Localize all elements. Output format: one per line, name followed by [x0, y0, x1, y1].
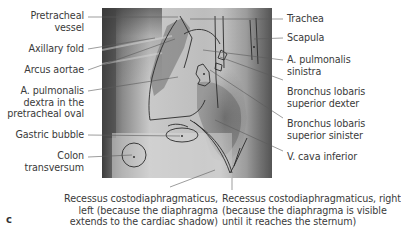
label-a-pulmonalis-dextra: A. pulmonalis dextra in the pretracheal … [7, 85, 84, 120]
label-line: Bronchus lobaris [287, 118, 365, 130]
label-line: Recessus costodiaphragmaticus, right [222, 193, 401, 205]
label-line: Arcus aortae [24, 64, 84, 76]
label-v-cava-inferior: V. cava inferior [287, 151, 357, 163]
label-axillary-fold: Axillary fold [29, 43, 85, 55]
label-recessus-left: Recessus costodiaphragmaticus, left (bec… [22, 193, 218, 228]
label-bronchus-lobaris-superior-dexter: Bronchus lobaris superior dexter [287, 86, 365, 109]
label-line: Gastric bubble [15, 129, 84, 141]
label-line: Recessus costodiaphragmaticus, [22, 193, 218, 205]
label-trachea: Trachea [287, 13, 324, 25]
label-line: until it reaches the sternum) [222, 216, 401, 228]
label-line: Scapula [287, 32, 324, 44]
label-line: superior dexter [287, 98, 365, 110]
label-arcus-aortae: Arcus aortae [24, 64, 84, 76]
label-line: left (because the diaphragma [22, 205, 218, 217]
label-bronchus-lobaris-superior-sinister: Bronchus lobaris superior sinister [287, 118, 365, 141]
label-line: Trachea [287, 13, 324, 25]
label-line: vessel [30, 22, 84, 34]
label-line: (because the diaphragma is visible [222, 205, 401, 217]
label-line: A. pulmonalis [287, 54, 351, 66]
label-line: A. pulmonalis [7, 85, 84, 97]
label-colon-transversum: Colon transversum [24, 150, 84, 173]
label-a-pulmonalis-sinistra: A. pulmonalis sinistra [287, 54, 351, 77]
label-line: extends to the cardiac shadow) [22, 216, 218, 228]
label-line: Pretracheal [30, 10, 84, 22]
label-line: dextra in the [7, 97, 84, 109]
label-scapula: Scapula [287, 32, 324, 44]
label-line: V. cava inferior [287, 151, 357, 163]
label-line: Colon [24, 150, 84, 162]
label-line: superior sinister [287, 130, 365, 142]
label-line: pretracheal oval [7, 108, 84, 120]
lateral-chest-radiograph [102, 8, 272, 178]
label-recessus-right: Recessus costodiaphragmaticus, right (be… [222, 193, 401, 228]
label-line: Axillary fold [29, 43, 85, 55]
label-line: sinistra [287, 66, 351, 78]
label-pretracheal-vessel: Pretracheal vessel [30, 10, 84, 33]
label-gastric-bubble: Gastric bubble [15, 129, 84, 141]
label-line: transversum [24, 162, 84, 174]
panel-letter: c [6, 214, 12, 225]
label-line: Bronchus lobaris [287, 86, 365, 98]
